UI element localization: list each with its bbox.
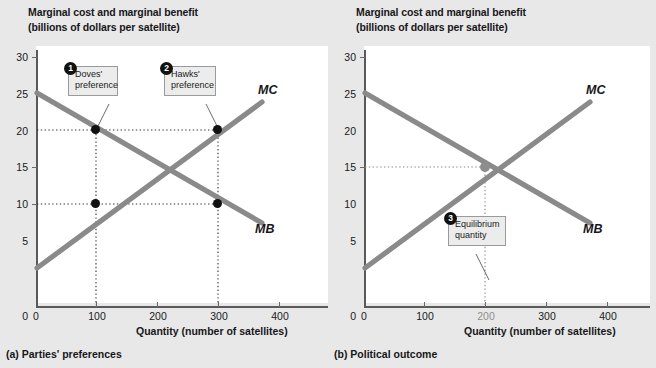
panel-a-marker-doves-mb	[91, 125, 100, 134]
panel-a-mb-curve	[37, 93, 262, 223]
panel-a-marker-hawks-mc	[213, 199, 222, 208]
panel-a: Marginal cost and marginal benefit (bill…	[0, 0, 328, 368]
panel-b-mb-label: MB	[583, 222, 602, 236]
panel-a-leader-doves	[97, 104, 109, 128]
panel-b-graphics	[328, 0, 656, 368]
panel-b: Marginal cost and marginal benefit (bill…	[328, 0, 656, 368]
panel-b-marker-equilibrium	[480, 162, 490, 172]
panel-a-marker-doves-mc	[91, 199, 100, 208]
panel-b-callout-equilibrium: Equilibrium quantity	[448, 216, 506, 246]
panel-a-mc-curve	[37, 102, 262, 268]
panel-a-callout-doves-badge: 1	[64, 62, 77, 75]
figure-root: Marginal cost and marginal benefit (bill…	[0, 0, 656, 368]
panel-a-callout-hawks-badge: 2	[160, 62, 173, 75]
panel-b-mb-curve	[365, 93, 590, 223]
panel-b-mc-label: MC	[586, 83, 605, 97]
panel-a-graphics	[0, 0, 328, 368]
panel-b-leader-equilibrium	[476, 254, 489, 280]
panel-a-marker-hawks-mb	[213, 125, 222, 134]
panel-b-callout-equilibrium-badge: 3	[444, 212, 457, 225]
panel-a-mc-label: MC	[258, 83, 277, 97]
panel-a-mb-label: MB	[255, 222, 274, 236]
